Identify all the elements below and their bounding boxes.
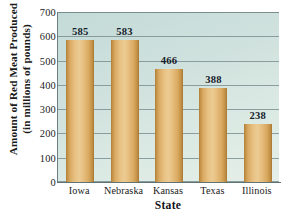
bar-group[interactable]: 388 <box>199 12 227 182</box>
y-tick-label: 100 <box>30 152 56 163</box>
bar[interactable] <box>66 40 94 182</box>
y-tick-label: 300 <box>30 104 56 115</box>
y-tick-label: 200 <box>30 128 56 139</box>
bar-value-label: 238 <box>250 110 267 121</box>
x-tick-label: Nebraska <box>104 185 143 196</box>
y-axis-title-line-1: Amount of Red Meat Produced <box>7 0 20 168</box>
y-tick-label: 400 <box>30 79 56 90</box>
bar-group[interactable]: 585 <box>66 12 94 182</box>
bar[interactable] <box>155 69 183 182</box>
x-tick-label: Illinois <box>242 185 272 196</box>
y-tick-label: 0 <box>30 177 56 188</box>
bar-value-label: 388 <box>205 74 222 85</box>
x-tick-label: Kansas <box>153 185 183 196</box>
y-axis-tick-labels: 7006005004003002001000 <box>30 0 56 217</box>
bar-group[interactable]: 238 <box>244 12 272 182</box>
bar-group[interactable]: 466 <box>155 12 183 182</box>
bar-group[interactable]: 583 <box>111 12 139 182</box>
plot-area: 585583466388238 <box>57 12 279 182</box>
bar[interactable] <box>199 88 227 182</box>
x-axis-line <box>57 182 281 183</box>
y-tick-label: 600 <box>30 31 56 42</box>
bar[interactable] <box>244 124 272 182</box>
bar-value-label: 585 <box>72 26 89 37</box>
bar-value-label: 583 <box>116 26 133 37</box>
x-axis-title: State <box>57 199 279 212</box>
bar[interactable] <box>111 40 139 182</box>
x-tick-label: Iowa <box>69 185 90 196</box>
bar-chart-figure: Amount of Red Meat Produced (in millions… <box>0 0 286 217</box>
y-tick-label: 700 <box>30 7 56 18</box>
bar-value-label: 466 <box>161 55 178 66</box>
y-tick-label: 500 <box>30 55 56 66</box>
bars-layer: 585583466388238 <box>58 12 279 182</box>
x-tick-label: Texas <box>200 185 224 196</box>
